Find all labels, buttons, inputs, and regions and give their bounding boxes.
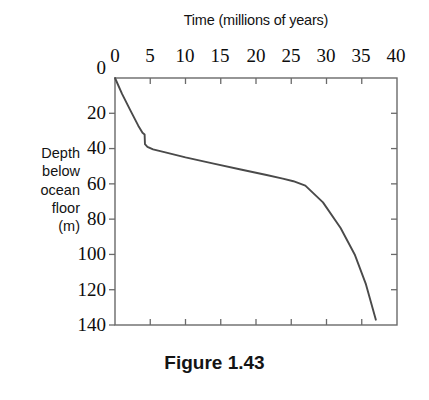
axis-ticks bbox=[109, 78, 397, 325]
figure-caption: Figure 1.43 bbox=[0, 352, 429, 374]
plot-frame bbox=[115, 78, 397, 325]
axis-frame bbox=[115, 78, 397, 325]
figure-container: Time (millions of years) Depth below oce… bbox=[0, 0, 429, 400]
plot-svg bbox=[0, 0, 429, 400]
data-series-line bbox=[115, 78, 376, 320]
